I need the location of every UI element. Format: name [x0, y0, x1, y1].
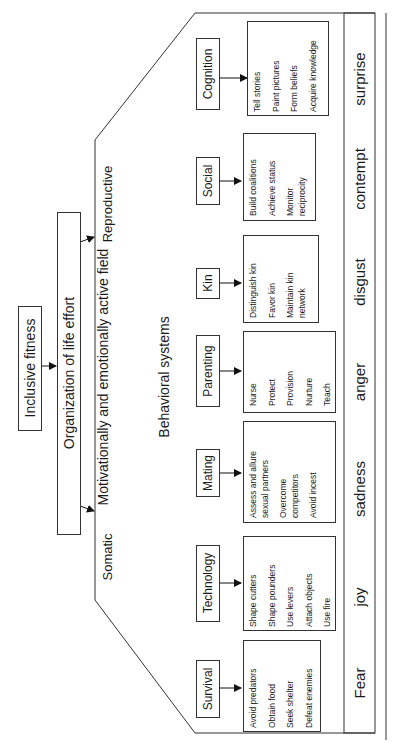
emotion-anger: anger [349, 347, 369, 417]
item: sexual partners [260, 451, 272, 518]
item: Shape pounders [267, 565, 279, 627]
system-label-cognition: Cognition [198, 37, 218, 111]
emotion-sadness: sadness [349, 449, 369, 529]
system-label-kin: Kin [198, 266, 218, 300]
item: Use fire [322, 565, 334, 627]
item: Paint pictures [271, 40, 283, 112]
item: network [297, 263, 309, 318]
item: Overcome [278, 451, 290, 518]
system-label-parenting: Parenting [198, 334, 218, 408]
item: reciprocity [297, 159, 309, 216]
items-list-survival: Avoid predators Obtain food Seek shelter… [248, 668, 315, 728]
item: Assess and allure [248, 451, 260, 518]
items-list-cognition: Tell stories Paint pictures Form beliefs… [252, 40, 319, 112]
item: competitors [290, 451, 302, 518]
item: Teach [322, 371, 334, 406]
item: Attach objects [304, 565, 316, 627]
item: Favor kin [267, 263, 279, 318]
behavioral-systems-label: Behavioral systems [154, 302, 174, 452]
item: Tell stories [252, 40, 264, 112]
organization-label: Organization of life effort [58, 212, 80, 534]
items-list-social: Build coalitions Achieve status Monitor … [248, 159, 308, 216]
items-list-parenting: Nurse Protect Provision Nurture Teach [248, 371, 334, 406]
item: Provision [285, 371, 297, 406]
item: Build coalitions [248, 159, 260, 216]
system-label-mating: Mating [198, 448, 218, 498]
item: Obtain food [267, 668, 279, 728]
items-list-kin: Distinguish kin Favor kin Maintain kin n… [248, 263, 308, 318]
item: Achieve status [267, 159, 279, 216]
item: Monitor [285, 159, 297, 216]
items-list-technology: Shape cutters Shape pounders Use levers … [248, 565, 334, 627]
item: Seek shelter [285, 668, 297, 728]
system-label-social: Social [198, 156, 218, 206]
emotion-surprise: surprise [349, 34, 369, 124]
system-label-technology: Technology [198, 543, 218, 623]
item: Protect [267, 371, 279, 406]
item: Shape cutters [248, 565, 260, 627]
items-list-mating: Assess and allure sexual partners Overco… [248, 451, 320, 518]
emotion-joy: joy [349, 567, 369, 627]
emotion-contempt: contempt [349, 134, 369, 224]
item: Acquire knowledge [308, 40, 320, 112]
system-label-survival: Survival [198, 659, 218, 719]
field-title: Motivationally and emotionally active fi… [93, 217, 113, 537]
emotion-disgust: disgust [349, 242, 369, 322]
item: Nurture [304, 371, 316, 406]
item: Distinguish kin [248, 263, 260, 318]
item: Form beliefs [289, 40, 301, 112]
item: Use levers [285, 565, 297, 627]
item: Nurse [248, 371, 260, 406]
item: Maintain kin [285, 263, 297, 318]
item: Defeat enemies [304, 668, 316, 728]
inclusive-fitness-label: Inclusive fitness [19, 305, 41, 431]
item: Avoid incest [308, 451, 320, 518]
emotion-fear: Fear [349, 653, 369, 713]
item: Avoid predators [248, 668, 260, 728]
